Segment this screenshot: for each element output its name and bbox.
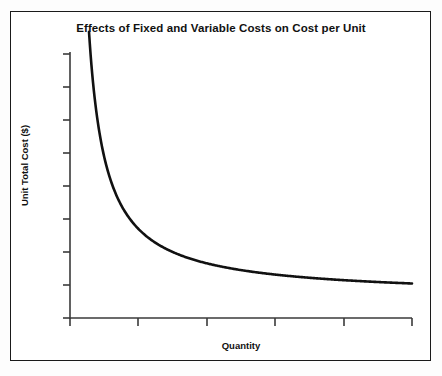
plot-area [0,0,442,376]
x-axis-label: Quantity [70,340,412,351]
y-axis-label: Unit Total Cost ($) [19,96,30,236]
x-axis-ticks [70,318,412,326]
y-axis-ticks [63,54,70,318]
cost-per-unit-curve [89,32,412,284]
chart-figure: Effects of Fixed and Variable Costs on C… [0,0,442,376]
